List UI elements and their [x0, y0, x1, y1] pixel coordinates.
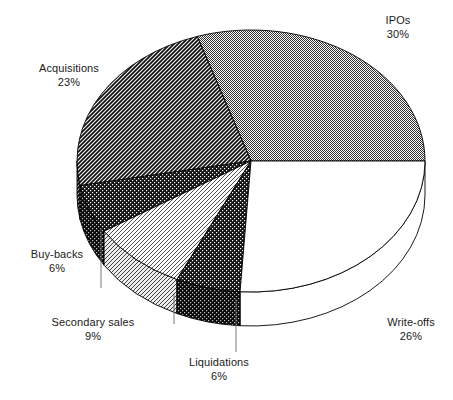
- slice-label-write-offs-name: Write-offs: [369, 316, 453, 330]
- pie-top-slices: [77, 30, 425, 292]
- slice-label-ipos: IPOs 30%: [352, 14, 444, 41]
- slice-label-secondary-sales-name: Secondary sales: [21, 316, 165, 330]
- slice-label-buy-backs-name: Buy-backs: [5, 248, 109, 262]
- slice-label-ipos-name: IPOs: [352, 14, 444, 28]
- slice-label-write-offs: Write-offs 26%: [369, 316, 453, 343]
- slice-label-acquisitions-value: 23%: [10, 76, 128, 90]
- slice-label-liquidations-name: Liquidations: [161, 356, 277, 370]
- slice-label-liquidations-value: 6%: [161, 370, 277, 384]
- pie-slice-write-offs[interactable]: [240, 161, 425, 292]
- slice-label-ipos-value: 30%: [352, 28, 444, 42]
- slice-label-buy-backs: Buy-backs 6%: [5, 248, 109, 275]
- slice-label-buy-backs-value: 6%: [5, 262, 109, 276]
- slice-label-write-offs-value: 26%: [369, 330, 453, 344]
- pie-chart-page: IPOs 30% Acquisitions 23% Buy-backs 6% S…: [0, 0, 453, 400]
- slice-label-acquisitions: Acquisitions 23%: [10, 62, 128, 89]
- slice-label-liquidations: Liquidations 6%: [161, 356, 277, 383]
- slice-label-secondary-sales: Secondary sales 9%: [21, 316, 165, 343]
- slice-label-acquisitions-name: Acquisitions: [10, 62, 128, 76]
- slice-label-secondary-sales-value: 9%: [21, 330, 165, 344]
